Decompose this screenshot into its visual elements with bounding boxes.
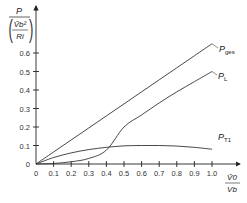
y-tick-label: 0.1 bbox=[20, 142, 30, 151]
y-tick-label: 0 bbox=[26, 160, 30, 169]
x-tick-label: 0.1 bbox=[48, 169, 58, 178]
right-paren: ) bbox=[29, 14, 33, 43]
x-tick-label: 0 bbox=[34, 169, 38, 178]
series-line-p-l bbox=[36, 72, 212, 165]
x-axis-label: V̂0 Vb bbox=[225, 173, 240, 194]
x-tick-label: 0.7 bbox=[154, 169, 164, 178]
x-tick-label: 0.8 bbox=[172, 169, 182, 178]
x-tick-label: 0.5 bbox=[119, 169, 129, 178]
y-tick-label: 0.5 bbox=[20, 68, 30, 77]
y-label-numerator: P bbox=[16, 6, 22, 16]
y-tick-label: 0.2 bbox=[20, 123, 30, 132]
y-tick-label: 0.3 bbox=[20, 105, 30, 114]
x-tick-label: 0.6 bbox=[136, 169, 146, 178]
x-tick-label: 0.9 bbox=[189, 169, 199, 178]
x-tick-label: 0.3 bbox=[84, 169, 94, 178]
series-label-p-ges: Pges bbox=[219, 44, 235, 55]
series-label-p-l: PL bbox=[218, 71, 228, 82]
y-axis-label: P ( V̂b² Ri ) bbox=[9, 6, 34, 43]
x-tick-label: 0.4 bbox=[101, 169, 111, 178]
x-label-numerator: V̂0 bbox=[227, 173, 237, 182]
x-label-denominator: Vb bbox=[227, 185, 237, 194]
series-label-leader bbox=[212, 72, 217, 76]
y-tick-label: 0.4 bbox=[20, 86, 30, 95]
y-label-denominator-num: V̂b² bbox=[14, 20, 27, 29]
chart: 00.10.20.30.40.50.60.70.80.91.0 00.10.20… bbox=[0, 0, 247, 203]
left-paren: ( bbox=[9, 14, 13, 43]
y-label-denominator-den: Ri bbox=[16, 32, 24, 41]
x-tick-label: 1.0 bbox=[207, 169, 217, 178]
series-label-leader bbox=[212, 44, 218, 48]
y-tick-label: 0.6 bbox=[20, 49, 30, 58]
x-tick-label: 0.2 bbox=[66, 169, 76, 178]
series-label-p-t1: PT1 bbox=[218, 132, 232, 143]
